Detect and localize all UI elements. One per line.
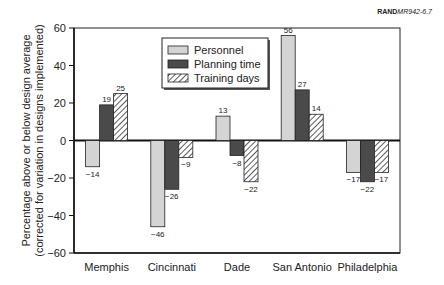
legend: PersonnelPlanning timeTraining days	[162, 38, 270, 90]
bar	[114, 94, 128, 141]
bar-value-label: −26	[165, 192, 179, 201]
bar-group: 13−8−22Dade	[216, 106, 258, 273]
bar-group: −141925Memphis	[84, 84, 129, 273]
bar	[100, 105, 114, 141]
bar-value-label: −14	[86, 170, 100, 179]
y-axis-label-line: Percentage above or below design average	[20, 34, 32, 246]
legend-swatch	[168, 60, 188, 68]
legend-swatch	[168, 46, 188, 54]
category-label: Dade	[224, 261, 250, 273]
bar	[151, 141, 165, 227]
y-axis-label-line: (corrected for variation in designs impl…	[33, 24, 45, 256]
bar-value-label: −17	[347, 175, 361, 184]
legend-label: Planning time	[194, 58, 261, 70]
category-label: Cincinnati	[148, 261, 196, 273]
y-axis-label: Percentage above or below design average…	[20, 24, 45, 256]
y-tick-label: −60	[47, 247, 66, 259]
category-label: Philadelphia	[337, 261, 398, 273]
bar	[244, 141, 258, 182]
bar-value-label: 19	[102, 95, 111, 104]
bar	[179, 141, 193, 158]
bar	[374, 141, 388, 173]
y-tick-label: 40	[54, 60, 66, 72]
bar-value-label: −22	[361, 185, 375, 194]
bar-value-label: 56	[284, 26, 293, 35]
category-label: San Antonio	[273, 261, 332, 273]
bar	[165, 141, 179, 190]
bar	[346, 141, 360, 173]
y-tick-label: 20	[54, 97, 66, 109]
bar	[216, 116, 230, 140]
legend-label: Personnel	[194, 44, 244, 56]
bar-value-label: −17	[375, 175, 389, 184]
y-tick-label: −20	[47, 172, 66, 184]
bar-chart: Percentage above or below design average…	[0, 0, 444, 285]
bar-value-label: −22	[244, 185, 258, 194]
bar-value-label: 13	[219, 106, 228, 115]
bar	[230, 141, 244, 156]
y-tick-label: 60	[54, 22, 66, 34]
bar-value-label: −46	[151, 230, 165, 239]
y-tick-label: 0	[60, 135, 66, 147]
bar-value-label: 14	[312, 104, 321, 113]
bar	[360, 141, 374, 182]
bar	[86, 141, 100, 167]
bar-value-label: 27	[298, 80, 307, 89]
category-label: Memphis	[84, 261, 129, 273]
bar-value-label: −8	[232, 159, 242, 168]
y-tick-label: −40	[47, 210, 66, 222]
bar	[281, 36, 295, 141]
bar-value-label: −9	[181, 160, 191, 169]
bar	[309, 114, 323, 140]
legend-label: Training days	[194, 72, 260, 84]
bar-group: 562714San Antonio	[273, 26, 332, 274]
legend-swatch	[168, 74, 188, 82]
bar	[295, 90, 309, 141]
bar-value-label: 25	[116, 84, 125, 93]
